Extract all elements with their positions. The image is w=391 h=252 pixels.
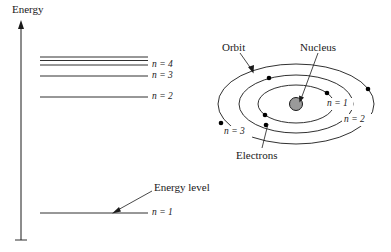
electron-dot-n2-upper-left [267, 76, 272, 81]
nucleus-leader [299, 53, 318, 103]
shell-label-n2: n = 2 [344, 115, 365, 125]
energy-level-label-n3: n = 3 [152, 71, 173, 81]
electron-dot-n3-right [366, 87, 371, 92]
energy-level-leader-line [116, 191, 152, 211]
energy-level-label-n1: n = 1 [152, 208, 173, 218]
energy-axis [15, 20, 27, 240]
energy-level-annotation: Energy level [154, 182, 210, 193]
electron-dot-n1-left [263, 113, 268, 118]
shell-label-n3: n = 3 [224, 127, 245, 137]
nucleus-leader-line [301, 53, 318, 99]
energy-axis-label: Energy [12, 4, 44, 15]
energy-level-label-n1-text: n = 1 [152, 207, 173, 217]
energy-level-label-n3-text: n = 3 [152, 70, 173, 80]
electron-dot-n1-right [325, 91, 330, 96]
energy-level-leader [112, 191, 152, 214]
nucleus-label: Nucleus [300, 42, 336, 53]
energy-axis-arrowhead [18, 20, 24, 29]
energy-level-label-n4: n = 4 [152, 60, 173, 70]
energy-level-label-n2-text: n = 2 [152, 91, 173, 101]
bohr-energy-level-figure: Energy n = 4 n = 3 n = 2 n = 1 Energy le… [0, 0, 391, 252]
electrons-label: Electrons [236, 150, 278, 161]
energy-level-leader-arrowhead [112, 207, 121, 214]
electron-dot-n3-left [219, 121, 224, 126]
energy-level-label-n2: n = 2 [152, 92, 173, 102]
energy-level-label-n4-text: n = 4 [152, 59, 173, 69]
shell-label-n3-text: n = 3 [224, 126, 245, 136]
shell-label-n1-text: n = 1 [327, 98, 348, 108]
shell-label-n2-text: n = 2 [344, 114, 365, 124]
figure-canvas [0, 0, 391, 252]
shell-label-n1: n = 1 [327, 99, 348, 109]
orbit-leader [240, 53, 254, 74]
orbit-label: Orbit [222, 42, 245, 53]
energy-level-lines [40, 57, 148, 213]
